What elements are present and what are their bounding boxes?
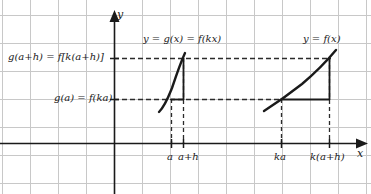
curve-g-group <box>159 53 185 112</box>
x-tick-label-a-plus-h: a+h <box>178 152 199 162</box>
curve-label-f: y = f(x) <box>303 34 341 44</box>
curve-g <box>159 53 185 112</box>
curve-label-g: y = g(x) = f(kx) <box>143 34 221 44</box>
x-tick-label-a: a <box>167 152 173 162</box>
function-scaling-diagram: y x g(a+h) = f[k(a+h)] g(a) = f(ka) y = … <box>0 0 371 194</box>
curve-f <box>264 50 336 111</box>
level-dashed-lines <box>114 59 331 100</box>
x-tick-label-ka: ka <box>274 152 286 162</box>
tick-dashed-lines <box>172 58 330 143</box>
level-label-lower: g(a) = f(ka) <box>54 93 112 103</box>
x-axis-label: x <box>357 148 363 159</box>
curve-f-group <box>264 50 336 111</box>
y-axis-label: y <box>117 9 123 20</box>
level-label-upper: g(a+h) = f[k(a+h)] <box>8 52 104 62</box>
x-tick-label-k-a-plus-h: k(a+h) <box>310 152 345 162</box>
